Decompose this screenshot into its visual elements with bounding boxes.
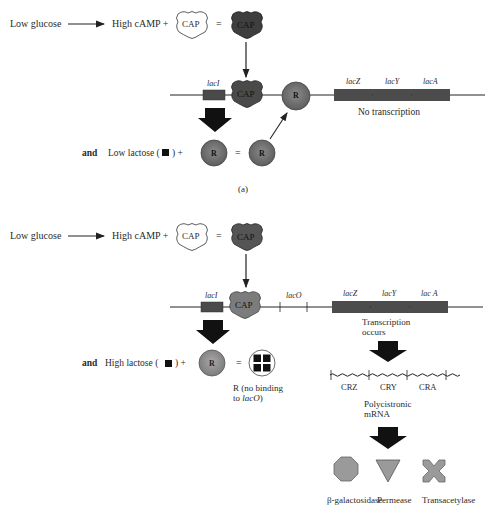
- cap-active-label: CAP: [237, 19, 255, 31]
- cap-inactive-label-b: CAP: [182, 230, 200, 242]
- lactose-plus-label: ) +: [172, 147, 183, 159]
- lacy-gene-box-b: [371, 301, 409, 313]
- equals-sign-2: =: [235, 147, 241, 159]
- laco-label: lacO: [286, 290, 302, 302]
- laca-gene-box-b: [410, 301, 448, 313]
- lactose-square-icon: [162, 149, 169, 156]
- diagram-graphics: [0, 0, 494, 521]
- permease-triangle-icon: [376, 460, 400, 482]
- mrna-segment-cra: CRA: [419, 381, 436, 393]
- mrna-segment-crz: CRZ: [341, 381, 358, 393]
- lacy-label: lacY: [385, 76, 399, 88]
- laci-label: lacI: [207, 78, 219, 90]
- and-label: and: [82, 147, 97, 159]
- big-down-arrow-icon: [198, 108, 232, 132]
- laca-label-b: lac A: [421, 288, 438, 300]
- repressor-label: R: [211, 148, 217, 160]
- low-glucose-label: Low glucose: [10, 18, 61, 30]
- transacetylase-x-icon: [423, 460, 445, 482]
- polycistronic-label-2: mRNA: [364, 408, 390, 420]
- cap-bound-label-b: CAP: [235, 299, 253, 311]
- equals-sign-b2: =: [236, 357, 242, 369]
- cap-inactive-label: CAP: [182, 18, 200, 30]
- lactose-square-icon-b: [165, 360, 172, 367]
- polycistronic-mrna-strand: [330, 370, 460, 380]
- translation-down-arrow-icon: [369, 427, 407, 449]
- laci-gene-box-b: [201, 302, 223, 312]
- laci-label-b: lacI: [205, 290, 217, 302]
- transcription-down-arrow-icon: [369, 341, 407, 362]
- permease-label: Permease: [377, 494, 411, 506]
- high-camp-label-b: High cAMP +: [112, 230, 168, 242]
- laca-gene-box: [412, 89, 450, 101]
- lacy-gene-box: [373, 89, 411, 101]
- repressor-lactose-complex-icon: [249, 350, 275, 376]
- cap-bound-label: CAP: [237, 88, 255, 100]
- panel-a: [68, 12, 485, 167]
- high-lactose-label: High lactose (: [105, 357, 158, 369]
- lacy-label-b: lacY: [382, 288, 396, 300]
- high-camp-label: High cAMP +: [112, 18, 168, 30]
- low-lactose-label: Low lactose (: [108, 147, 160, 159]
- equals-sign: =: [216, 18, 222, 30]
- beta-galactosidase-octagon-icon: [334, 457, 358, 481]
- cap-active-label-b: CAP: [237, 231, 255, 243]
- lacz-gene-box: [334, 89, 372, 101]
- no-transcription-label: No transcription: [358, 106, 420, 118]
- equals-sign-b: =: [216, 230, 222, 242]
- lactose-plus-label-b: ) +: [175, 357, 186, 369]
- panel-b: [68, 224, 483, 483]
- no-binding-label-2: to lacO): [233, 392, 263, 404]
- arrow-repressor-to-dna: [270, 113, 287, 139]
- laci-gene-box: [203, 90, 225, 100]
- lacz-label-b: lacZ: [343, 288, 357, 300]
- beta-galactosidase-label: β-galactosidase: [327, 494, 383, 506]
- repressor-result-label: R: [259, 148, 265, 160]
- transcription-occurs-label-2: occurs: [362, 326, 386, 338]
- repressor-bound-label: R: [293, 90, 299, 102]
- lacz-gene-box-b: [332, 301, 370, 313]
- laca-label: lacA: [423, 76, 438, 88]
- lacz-label: lacZ: [346, 76, 360, 88]
- low-glucose-label-b: Low glucose: [10, 230, 61, 242]
- panel-a-caption: (a): [238, 183, 248, 195]
- transacetylase-label: Transacetylase: [422, 494, 475, 506]
- big-down-arrow-icon-b: [196, 320, 230, 344]
- mrna-segment-cry: CRY: [380, 381, 397, 393]
- repressor-label-b: R: [209, 358, 215, 370]
- and-label-b: and: [82, 357, 97, 369]
